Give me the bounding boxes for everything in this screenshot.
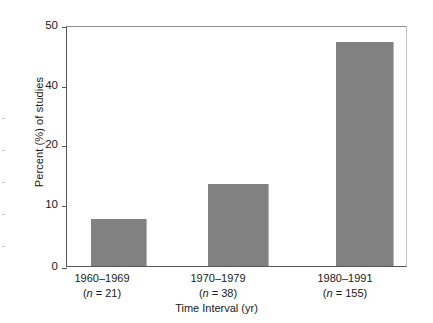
scan-artifact (2, 118, 5, 119)
x-category-range: 1980–1991 (290, 271, 400, 286)
y-tick-label: 50 (45, 19, 58, 31)
y-tick-mark (62, 268, 67, 269)
y-axis-title: Percent (%) of studies (33, 52, 45, 212)
x-category-1980-1991: 1980–1991 (n = 155) (290, 271, 400, 301)
x-category-range: 1970–1979 (164, 271, 272, 286)
x-category-sample-size: (n = 38) (164, 286, 272, 301)
y-tick-mark (62, 87, 67, 88)
x-category-1960-1969: 1960–1969 (n = 21) (48, 271, 156, 301)
x-category-sample-size: (n = 155) (290, 286, 400, 301)
bar-1970-1979 (208, 184, 269, 266)
scan-artifact (2, 214, 5, 215)
x-category-sample-size: (n = 21) (48, 286, 156, 301)
y-tick-label: 20 (45, 138, 58, 150)
scan-artifact (2, 182, 5, 183)
x-category-range: 1960–1969 (48, 271, 156, 286)
y-tick-label: 40 (45, 79, 58, 91)
bar-1980-1991 (336, 42, 394, 266)
bar-1960-1969 (91, 219, 147, 266)
x-axis-title: Time Interval (yr) (0, 302, 433, 314)
y-tick-mark (62, 27, 67, 28)
bar-chart-figure: Percent (%) of studies 50 40 20 10 0 (0, 0, 433, 323)
scan-artifact (2, 246, 5, 247)
y-tick-mark (62, 206, 67, 207)
y-tick-mark (62, 146, 67, 147)
scan-artifact (2, 150, 5, 151)
plot-area: 50 40 20 10 0 (66, 26, 407, 267)
y-tick-label: 10 (45, 198, 58, 210)
x-category-1970-1979: 1970–1979 (n = 38) (164, 271, 272, 301)
